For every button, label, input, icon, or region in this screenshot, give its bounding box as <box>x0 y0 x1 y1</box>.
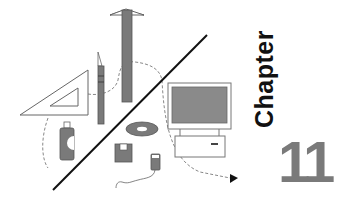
cd-disc-icon <box>126 122 158 136</box>
pencil-icon <box>98 52 104 124</box>
arrow-icon <box>230 174 238 183</box>
chapter-number: 11 <box>278 133 331 191</box>
spray-can-icon <box>60 122 74 160</box>
chapter-label: Chapter <box>252 30 277 128</box>
t-square-icon <box>110 9 144 102</box>
computer-icon <box>168 83 231 157</box>
chapter-opener: Chapter 11 <box>0 0 339 203</box>
set-square-icon <box>20 70 88 115</box>
floppy-disk-icon <box>115 144 132 162</box>
